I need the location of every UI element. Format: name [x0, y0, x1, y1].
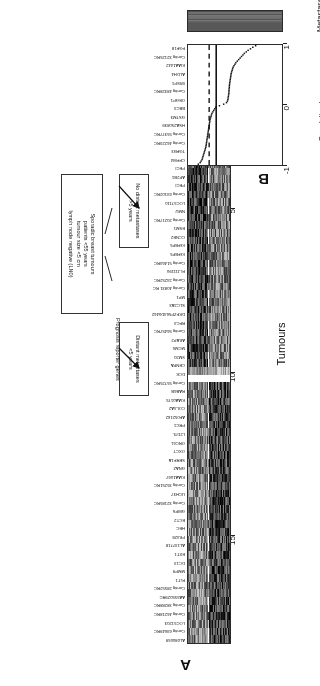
correlation-point — [204, 151, 205, 152]
correlation-point — [226, 102, 227, 103]
correlation-point — [204, 150, 205, 151]
correlation-point — [212, 111, 213, 112]
correlation-point — [228, 90, 229, 91]
metastases-label: Metastases — [315, 0, 317, 32]
correlation-point — [230, 77, 231, 78]
correlation-point — [244, 53, 245, 54]
correlation-point — [230, 79, 231, 80]
correlation-point — [252, 47, 253, 48]
correlation-tick-0: 0 — [283, 106, 291, 110]
correlation-point — [239, 57, 240, 58]
correlation-point — [208, 128, 209, 129]
correlation-point — [198, 163, 199, 164]
correlation-point — [207, 133, 208, 134]
correlation-point — [209, 120, 210, 121]
correlation-point — [207, 134, 208, 135]
correlation-point — [208, 130, 209, 131]
correlation-point — [209, 122, 210, 123]
correlation-point — [230, 73, 231, 74]
correlation-point — [228, 94, 229, 95]
correlation-point — [211, 113, 212, 114]
correlation-point — [229, 82, 230, 83]
correlation-point — [205, 145, 206, 146]
correlation-point — [205, 148, 206, 149]
correlation-plot-svg — [188, 45, 282, 165]
correlation-point — [229, 87, 230, 88]
correlation-point — [209, 123, 210, 124]
metastases-strip — [187, 10, 283, 32]
correlation-point — [210, 116, 211, 117]
correlation-point — [232, 67, 233, 68]
correlation-point — [206, 142, 207, 143]
correlation-point — [214, 108, 215, 109]
correlation-point — [206, 139, 207, 140]
correlation-point — [241, 56, 242, 57]
correlation-point — [205, 147, 206, 148]
correlation-point — [229, 85, 230, 86]
correlation-point — [234, 63, 235, 64]
panel-b-letter: B — [258, 171, 269, 188]
correlation-point — [230, 76, 231, 77]
correlation-point — [242, 54, 243, 55]
correlation-point — [238, 59, 239, 60]
correlation-point — [208, 127, 209, 128]
correlation-point — [202, 156, 203, 157]
correlation-point — [227, 100, 228, 101]
correlation-point — [208, 125, 209, 126]
figure-root: A 51015 Tumours AL080059Contig 63649RCLO… — [0, 0, 317, 686]
correlation-point — [250, 48, 251, 49]
correlation-tick--1: -1 — [283, 167, 291, 174]
correlation-point — [232, 68, 233, 69]
correlation-point — [231, 70, 232, 71]
correlation-point — [231, 71, 232, 72]
correlation-tick-mark — [283, 104, 287, 105]
correlation-x-axis: -101 — [283, 40, 307, 170]
correlation-point — [228, 96, 229, 97]
correlation-tick-1: 1 — [283, 45, 291, 49]
correlation-point — [213, 110, 214, 111]
correlation-point — [235, 62, 236, 63]
correlation-point — [200, 160, 201, 161]
correlation-point — [215, 107, 216, 108]
correlation-point — [203, 153, 204, 154]
correlation-point — [228, 91, 229, 92]
correlation-point — [255, 45, 256, 46]
correlation-point — [207, 131, 208, 132]
correlation-point — [227, 99, 228, 100]
correlation-point — [228, 88, 229, 89]
correlation-point — [233, 65, 234, 66]
correlation-point — [223, 103, 224, 104]
correlation-point — [202, 157, 203, 158]
correlation-point — [219, 105, 220, 106]
correlation-tick-mark — [283, 43, 287, 44]
correlation-point — [228, 93, 229, 94]
correlation-point — [209, 119, 210, 120]
correlation-point — [247, 50, 248, 51]
correlation-plot — [187, 44, 283, 166]
metastases-strip-svg — [188, 11, 282, 31]
correlation-point — [206, 143, 207, 144]
correlation-point — [206, 140, 207, 141]
correlation-point — [229, 83, 230, 84]
correlation-point — [237, 60, 238, 61]
correlation-tick-mark — [283, 165, 287, 166]
correlation-point — [203, 154, 204, 155]
correlation-point — [230, 74, 231, 75]
correlation-point — [245, 51, 246, 52]
correlation-point — [227, 97, 228, 98]
correlation-point — [199, 162, 200, 163]
correlation-point — [210, 117, 211, 118]
correlation-point — [201, 159, 202, 160]
metastases-label-wrap: Metastases — [293, 10, 315, 32]
correlation-point — [229, 80, 230, 81]
correlation-point — [211, 114, 212, 115]
correlation-point — [207, 136, 208, 137]
correlation-point — [206, 137, 207, 138]
